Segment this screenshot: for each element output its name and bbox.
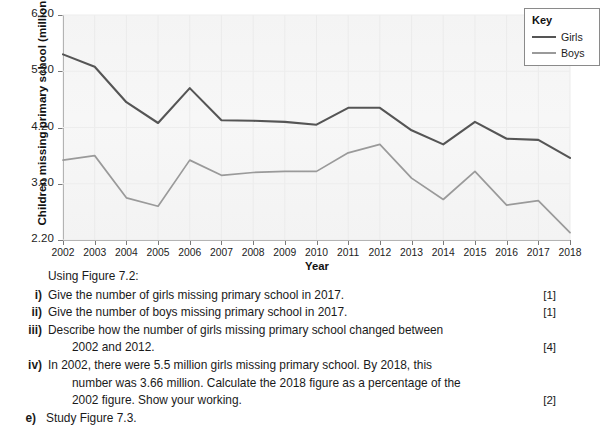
question-marker-e: e) <box>10 410 36 428</box>
question-text-iv: In 2002, there were 5.5 million girls mi… <box>48 358 432 372</box>
question-marker-iv: iv) <box>0 357 42 375</box>
figure-chart: 6.205.204.203.202.20 2002200320042005200… <box>0 0 614 272</box>
question-item-e: e) Study Figure 7.3. <box>0 410 614 428</box>
question-text-iv-line3: 2002 figure. Show your working. <box>72 393 242 407</box>
legend-item-girls: Girls <box>532 31 592 43</box>
question-item-iv-cont2: 2002 figure. Show your working. [2] <box>0 392 614 410</box>
question-block: Using Figure 7.2: i) Give the number of … <box>0 268 614 427</box>
question-marker-i: i) <box>0 287 42 305</box>
question-text-iii-line2: 2002 and 2012. <box>72 340 155 354</box>
question-text-i: Give the number of girls missing primary… <box>48 288 344 302</box>
chart-legend: Key Girls Boys <box>524 8 600 66</box>
legend-title: Key <box>532 14 592 26</box>
legend-item-boys: Boys <box>532 47 592 59</box>
question-item-iii-cont: 2002 and 2012. [4] <box>0 339 614 357</box>
legend-swatch-boys-icon <box>532 52 556 54</box>
question-text-iv-line2: number was 3.66 million. Calculate the 2… <box>72 376 461 390</box>
question-marker-ii: ii) <box>0 304 42 322</box>
legend-swatch-girls-icon <box>532 36 556 38</box>
question-marks-iv: [2] <box>543 392 556 410</box>
question-item-iv: iv) In 2002, there were 5.5 million girl… <box>0 357 614 375</box>
question-item-ii: ii) Give the number of boys missing prim… <box>0 304 614 322</box>
question-item-iv-cont1: number was 3.66 million. Calculate the 2… <box>0 375 614 393</box>
question-marker-iii: iii) <box>0 322 42 340</box>
question-text-e: Study Figure 7.3. <box>46 411 137 425</box>
question-marks-ii: [1] <box>543 304 556 322</box>
question-text-iii: Describe how the number of girls missing… <box>48 323 443 337</box>
question-text-ii: Give the number of boys missing primary … <box>48 305 347 319</box>
question-item-i: i) Give the number of girls missing prim… <box>0 287 614 305</box>
legend-label-girls: Girls <box>561 31 583 43</box>
question-item-iii: iii) Describe how the number of girls mi… <box>0 322 614 340</box>
y-axis-title: Children missing primary school (million… <box>35 0 48 226</box>
question-marks-iii: [4] <box>543 339 556 357</box>
legend-label-boys: Boys <box>561 47 585 59</box>
series-lines <box>0 0 614 272</box>
question-intro: Using Figure 7.2: <box>0 268 614 286</box>
question-marks-i: [1] <box>543 287 556 305</box>
